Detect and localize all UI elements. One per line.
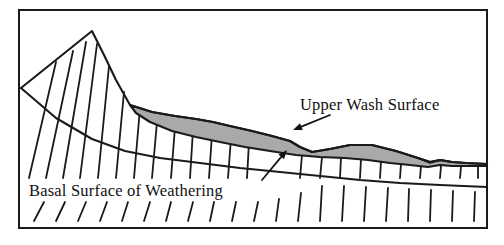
hatch-line: [360, 159, 361, 178]
hatch-line: [340, 157, 341, 178]
hatch-line: [460, 167, 461, 178]
figure-root: Upper Wash Surface Basal Surface of Weat…: [0, 0, 504, 245]
hatch-line: [430, 190, 431, 221]
hatch-line: [440, 166, 441, 178]
label-upper-wash-surface: Upper Wash Surface: [300, 95, 439, 114]
label-basal-surface-of-weathering: Basal Surface of Weathering: [29, 181, 223, 200]
hatch-line: [380, 161, 381, 178]
figure-background: [0, 0, 504, 245]
hatch-line: [408, 189, 409, 221]
cross-section-diagram: Upper Wash Surface Basal Surface of Weat…: [0, 0, 504, 245]
hatch-line: [452, 191, 453, 221]
hatch-line: [400, 164, 401, 178]
hatch-line: [420, 166, 421, 178]
hatch-line: [474, 192, 475, 221]
